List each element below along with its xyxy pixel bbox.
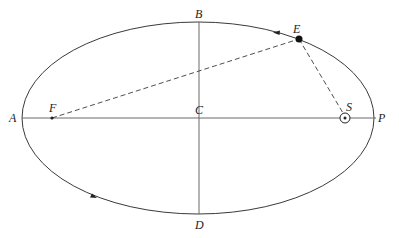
segment-F-E (52, 39, 299, 118)
label-D: D (194, 218, 204, 232)
orbit-diagram: A B C D E F S P (0, 0, 399, 238)
focus-F-dot (50, 116, 53, 119)
label-F: F (48, 101, 57, 115)
label-C: C (195, 103, 204, 117)
planet-E-dot (296, 36, 303, 43)
segment-E-S (299, 39, 343, 113)
sun-icon (340, 113, 350, 123)
label-B: B (195, 7, 203, 21)
label-S: S (346, 100, 352, 114)
label-E: E (292, 22, 301, 36)
label-A: A (8, 111, 17, 125)
label-P: P (377, 111, 386, 125)
